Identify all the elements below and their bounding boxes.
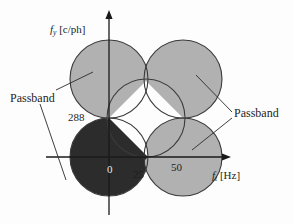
- x-axis-arrowhead: [222, 153, 231, 160]
- y-axis-subscript: y: [53, 28, 56, 37]
- y-axis-label: fy [c/ph]: [50, 24, 85, 36]
- annotation-passband-left: Passband: [10, 92, 55, 104]
- x-axis-unit: [Hz]: [220, 169, 240, 181]
- y-axis-unit: [c/ph]: [59, 23, 85, 35]
- annotation-passband-right: Passband: [234, 107, 279, 119]
- figure-canvas: fy [c/ph] ft [Hz] 288 0 25 50 Passband P…: [0, 0, 294, 224]
- tick-label-0: 0: [107, 164, 113, 175]
- tick-label-25: 25: [133, 169, 144, 180]
- tick-label-288: 288: [68, 112, 85, 123]
- x-axis-subscript: t: [215, 174, 217, 183]
- x-axis-label: ft [Hz]: [212, 170, 240, 182]
- tick-label-50: 50: [171, 162, 182, 173]
- leader-left-lower: [40, 104, 66, 180]
